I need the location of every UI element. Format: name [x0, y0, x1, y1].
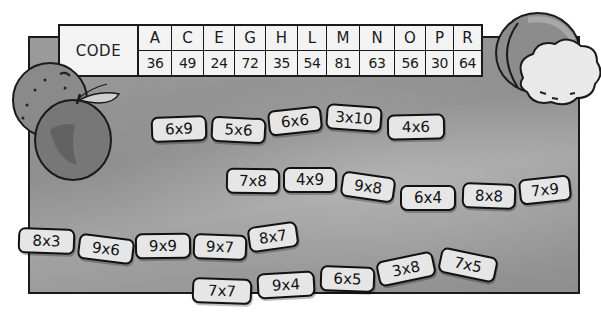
code-letter: C	[172, 26, 203, 51]
code-column: G 72	[235, 26, 266, 75]
code-letter: H	[266, 26, 297, 51]
multiplication-tile[interactable]: 7x9	[518, 174, 572, 205]
code-value: 64	[454, 51, 481, 75]
code-letter: G	[235, 26, 265, 51]
multiplication-tile[interactable]: 8x8	[462, 182, 517, 210]
multiplication-tile[interactable]: 9x4	[256, 271, 315, 300]
code-column: E 24	[204, 26, 235, 75]
code-letter: M	[327, 26, 359, 51]
multiplication-tile[interactable]: 6x5	[320, 265, 376, 293]
multiplication-tile[interactable]: 4x9	[283, 167, 337, 193]
code-column: N 63	[360, 26, 395, 75]
code-column: H 35	[266, 26, 298, 75]
peach-and-cauliflower-illustration	[488, 8, 601, 113]
code-value: 56	[395, 51, 425, 75]
code-letter: L	[298, 26, 326, 51]
code-column: R 64	[454, 26, 481, 75]
code-value: 81	[327, 51, 359, 75]
multiplication-tile[interactable]: 6x9	[151, 115, 208, 143]
code-value: 24	[204, 51, 234, 75]
code-letter: R	[454, 26, 481, 51]
code-column: P 30	[426, 26, 454, 75]
code-column: M 81	[327, 26, 360, 75]
code-column: A 36	[139, 26, 172, 75]
code-column: L 54	[298, 26, 327, 75]
multiplication-tile[interactable]: 9x7	[193, 233, 248, 261]
orange-and-apple-illustration	[5, 60, 135, 190]
multiplication-tile[interactable]: 7x8	[226, 168, 280, 195]
code-column: C 49	[172, 26, 204, 75]
code-value: 49	[172, 51, 203, 75]
code-columns: A 36 C 49 E 24 G 72 H 35 L 54	[139, 26, 481, 75]
code-value: 54	[298, 51, 326, 75]
multiplication-tile[interactable]: 5x6	[210, 116, 266, 145]
code-value: 30	[426, 51, 453, 75]
code-value: 72	[235, 51, 265, 75]
code-column: O 56	[395, 26, 426, 75]
code-letter: N	[360, 26, 394, 51]
multiplication-tile[interactable]: 3x10	[325, 103, 383, 133]
multiplication-tile[interactable]: 4x6	[387, 113, 445, 140]
code-value: 36	[139, 51, 171, 75]
code-letter: A	[139, 26, 171, 51]
code-value: 35	[266, 51, 297, 75]
puzzle-scene: CODE A 36 C 49 E 24 G 72 H 35	[0, 0, 601, 316]
multiplication-tile[interactable]: 8x3	[18, 227, 76, 255]
multiplication-tile[interactable]: 7x7	[192, 277, 253, 305]
code-letter: E	[204, 26, 234, 51]
code-value: 63	[360, 51, 394, 75]
code-letter: O	[395, 26, 425, 51]
multiplication-tile[interactable]: 9x9	[135, 233, 191, 260]
code-letter: P	[426, 26, 453, 51]
multiplication-tile[interactable]: 6x4	[400, 185, 456, 211]
